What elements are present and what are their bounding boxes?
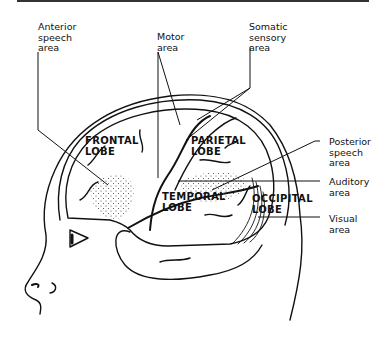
- nose-wing: [50, 283, 56, 293]
- label-occipital-lobe: OCCIPITAL LOBE: [252, 194, 313, 215]
- label-anterior-speech-area: Anterior speech area: [38, 22, 76, 54]
- brain-outline: [66, 109, 274, 246]
- label-motor-area: Motor area: [157, 32, 184, 53]
- nostril: [32, 284, 39, 287]
- label-posterior-speech-area: Posterior speech area: [329, 137, 371, 169]
- label-frontal-lobe: FRONTAL LOBE: [85, 136, 139, 157]
- label-auditory-area: Auditory area: [329, 177, 369, 198]
- label-parietal-lobe: PARIETAL LOBE: [191, 136, 246, 157]
- leader-somatic-2: [186, 88, 250, 140]
- anterior-speech-stipple: [90, 175, 134, 219]
- label-temporal-lobe: TEMPORAL LOBE: [162, 192, 226, 213]
- label-somatic-sensory-area: Somatic sensory area: [249, 22, 288, 54]
- leader-motor-2: [158, 52, 180, 125]
- label-visual-area: Visual area: [329, 214, 357, 235]
